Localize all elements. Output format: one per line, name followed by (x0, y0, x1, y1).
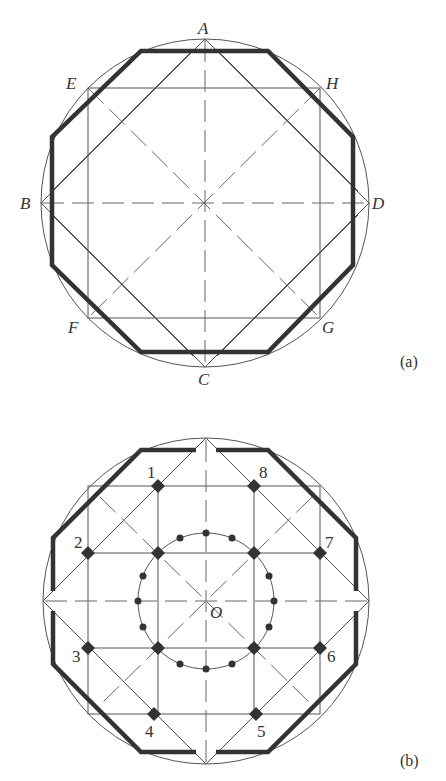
label-2: 2 (74, 533, 83, 552)
outer-square (88, 486, 320, 714)
label-h: H (325, 74, 340, 93)
label-1: 1 (147, 463, 156, 482)
label-5: 5 (257, 722, 266, 741)
caption-a: (a) (400, 353, 418, 371)
label-f: F (67, 318, 79, 337)
label-8: 8 (259, 463, 268, 482)
label-c: C (198, 370, 210, 389)
label-6: 6 (327, 647, 336, 666)
label-d: D (371, 194, 385, 213)
label-7: 7 (325, 533, 334, 552)
label-4: 4 (145, 722, 154, 741)
figure-a: A E H B D F G C (a) (20, 19, 418, 389)
label-a: A (197, 19, 209, 38)
label-o: O (210, 603, 222, 622)
caption-b: (b) (400, 752, 419, 770)
octagon-construction-figure: A E H B D F G C (a) (0, 0, 446, 781)
label-3: 3 (72, 647, 81, 666)
label-b: B (20, 194, 31, 213)
diamond-markers (81, 479, 327, 721)
label-g: G (322, 318, 334, 337)
label-e: E (65, 74, 77, 93)
figure-b: 1 2 3 4 5 6 7 8 O (b) (43, 438, 419, 770)
